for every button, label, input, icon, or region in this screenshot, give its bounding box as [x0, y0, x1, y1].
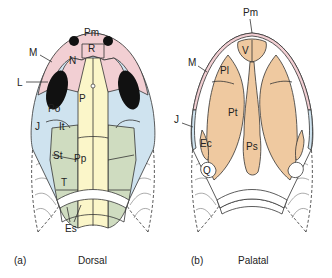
label-palatine: Pl [220, 65, 229, 76]
caption-b-title: Palatal [238, 255, 269, 266]
label-supratemporal: St [53, 150, 63, 161]
label-postparietal: Pp [74, 153, 87, 164]
captions: (a) Dorsal (b) Palatal [14, 255, 269, 266]
label-extrascapular: Es [65, 223, 77, 234]
label-maxilla-b: M [188, 57, 196, 68]
caption-a-letter: (a) [14, 255, 26, 266]
label-rostral: R [88, 43, 95, 54]
label-jugal: J [35, 121, 40, 132]
label-intertemporal: It [59, 121, 65, 132]
label-postorbital: Po [48, 103, 61, 114]
skull-diagram: Pm R M N L P Po J It St Pp T Es [0, 0, 332, 278]
palatal-skull [191, 33, 313, 232]
label-maxilla: M [29, 47, 37, 58]
label-premaxilla-b: Pm [243, 7, 258, 18]
label-jugal-b: J [174, 114, 179, 125]
caption-b-letter: (b) [191, 255, 203, 266]
label-quadrate: Q [203, 165, 211, 176]
label-nasal: N [69, 55, 76, 66]
label-tabular: T [61, 177, 67, 188]
label-premaxilla: Pm [84, 27, 99, 38]
label-vomer: V [242, 45, 249, 56]
caption-a-title: Dorsal [78, 255, 107, 266]
dorsal-skull [31, 33, 155, 232]
label-parasphenoid: Ps [246, 141, 258, 152]
label-ectopterygoid: Ec [200, 138, 212, 149]
label-lacrimal: L [17, 77, 23, 88]
label-parietal: P [79, 93, 86, 104]
label-pterygoid: Pt [228, 107, 238, 118]
